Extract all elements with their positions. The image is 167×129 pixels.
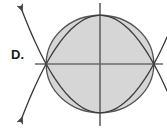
answer-choice-figure: D. <box>0 0 167 129</box>
coordinate-plot <box>0 0 167 129</box>
